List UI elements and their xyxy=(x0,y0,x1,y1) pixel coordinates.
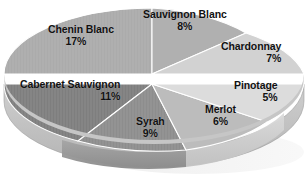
pie-chart: Chenin Blanc 17% Sauvignon Blanc 8% Char… xyxy=(0,0,308,177)
pie-label-pinotage-text: Pinotage xyxy=(234,79,278,91)
pie-label-chardonnay-value: 7% xyxy=(221,53,281,65)
pie-label-merlot: Merlot 6% xyxy=(205,104,236,127)
pie-label-pinotage: Pinotage 5% xyxy=(234,80,278,103)
pie-label-syrah: Syrah 9% xyxy=(136,116,165,139)
pie-label-chenin-blanc-value: 17% xyxy=(48,36,114,48)
pie-label-merlot-value: 6% xyxy=(205,116,236,128)
pie-label-chenin-blanc: Chenin Blanc 17% xyxy=(48,24,114,47)
pie-label-cabernet-sauvignon-value: 11% xyxy=(20,91,120,103)
pie-label-syrah-text: Syrah xyxy=(136,115,165,127)
pie-label-cabernet-sauvignon: Cabernet Sauvignon 11% xyxy=(20,79,120,102)
pie-label-sauvignon-blanc-value: 8% xyxy=(143,21,227,33)
pie-label-merlot-text: Merlot xyxy=(205,103,236,115)
pie-label-cabernet-sauvignon-text: Cabernet Sauvignon xyxy=(20,78,120,90)
pie-label-sauvignon-blanc-text: Sauvignon Blanc xyxy=(143,8,227,20)
pie-label-syrah-value: 9% xyxy=(136,128,165,140)
pie-label-sauvignon-blanc: Sauvignon Blanc 8% xyxy=(143,9,227,32)
pie-label-pinotage-value: 5% xyxy=(234,92,278,104)
pie-label-chenin-blanc-text: Chenin Blanc xyxy=(48,23,114,35)
pie-label-chardonnay-text: Chardonnay xyxy=(221,40,281,52)
pie-label-chardonnay: Chardonnay 7% xyxy=(221,41,281,64)
